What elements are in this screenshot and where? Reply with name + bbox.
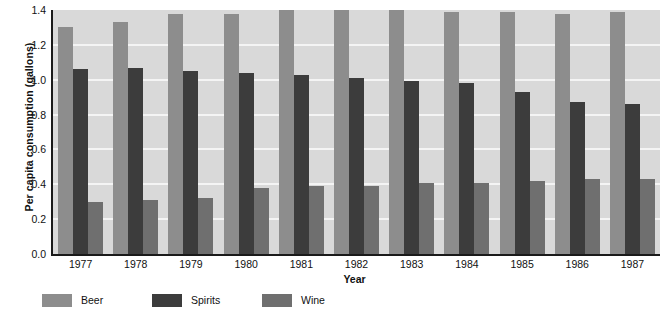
bar-group: [384, 10, 439, 254]
legend-label: Wine: [301, 294, 325, 306]
bar-beer: [610, 12, 625, 254]
bar-wine: [585, 179, 600, 254]
y-axis-tick-label: 1.0: [2, 74, 46, 86]
bar-spirits: [515, 92, 530, 254]
legend-swatch-wine: [262, 294, 292, 307]
bar-beer: [168, 14, 183, 255]
x-axis-tick-label: 1981: [274, 258, 329, 270]
legend-label: Beer: [81, 294, 103, 306]
bar-wine: [530, 181, 545, 254]
bar-spirits: [239, 73, 254, 254]
x-axis-tick-label: 1987: [605, 258, 660, 270]
y-axis-tick-label: 0.2: [2, 213, 46, 225]
legend-swatch-spirits: [152, 294, 182, 307]
x-axis-tick-label: 1980: [219, 258, 274, 270]
bar-wine: [474, 183, 489, 254]
x-axis-tick-label: 1983: [384, 258, 439, 270]
x-axis-tick-labels: 1977197819791980198119821983198419851986…: [53, 258, 660, 270]
bar-wine: [88, 202, 103, 254]
bar-beer: [389, 10, 404, 254]
bar-group: [550, 10, 605, 254]
legend-label: Spirits: [191, 294, 220, 306]
bar-group: [605, 10, 660, 254]
y-axis-tick-labels: 1.41.21.00.80.60.40.20.0: [0, 0, 46, 254]
bar-beer: [500, 12, 515, 254]
bar-wine: [143, 200, 158, 254]
bar-spirits: [183, 71, 198, 254]
bar-group: [329, 10, 384, 254]
bar-spirits: [73, 69, 88, 254]
bar-group: [219, 10, 274, 254]
bar-beer: [224, 14, 239, 255]
bar-wine: [254, 188, 269, 254]
bar-beer: [58, 27, 73, 254]
y-axis-tick-label: 0.0: [2, 248, 46, 260]
bar-spirits: [570, 102, 585, 254]
bar-wine: [198, 198, 213, 254]
y-axis-tick-label: 0.6: [2, 143, 46, 155]
bar-spirits: [404, 81, 419, 254]
bar-group: [163, 10, 218, 254]
legend-swatch-beer: [42, 294, 72, 307]
y-axis-tick-label: 1.4: [2, 4, 46, 16]
legend-item-beer: Beer: [42, 292, 152, 308]
x-axis-tick-label: 1986: [550, 258, 605, 270]
chart-legend: BeerSpiritsWine: [42, 292, 372, 308]
x-axis-title: Year: [51, 273, 658, 285]
bar-beer: [113, 22, 128, 254]
bar-beer: [444, 12, 459, 254]
bar-beer: [334, 10, 349, 254]
y-axis-tick-label: 1.2: [2, 39, 46, 51]
bar-wine: [640, 179, 655, 254]
bar-beer: [279, 10, 294, 254]
bar-groups: [53, 10, 660, 254]
bar-spirits: [294, 75, 309, 255]
bar-wine: [309, 186, 324, 254]
bar-group: [495, 10, 550, 254]
bar-spirits: [459, 83, 474, 254]
bar-beer: [555, 14, 570, 255]
plot-area: [51, 10, 660, 256]
legend-item-wine: Wine: [262, 292, 372, 308]
bar-chart: Per capita consumption (gallons) 1.41.21…: [0, 0, 664, 313]
bar-wine: [419, 183, 434, 254]
x-axis-tick-label: 1977: [53, 258, 108, 270]
bar-wine: [364, 186, 379, 254]
bar-group: [274, 10, 329, 254]
bar-spirits: [128, 68, 143, 254]
bar-group: [439, 10, 494, 254]
x-axis-tick-label: 1985: [495, 258, 550, 270]
x-axis-tick-label: 1978: [108, 258, 163, 270]
bar-group: [53, 10, 108, 254]
legend-item-spirits: Spirits: [152, 292, 262, 308]
x-axis-tick-label: 1984: [439, 258, 494, 270]
y-axis-tick-label: 0.4: [2, 178, 46, 190]
x-axis-tick-label: 1979: [163, 258, 218, 270]
bar-group: [108, 10, 163, 254]
x-axis-tick-label: 1982: [329, 258, 384, 270]
bar-spirits: [349, 78, 364, 254]
y-axis-tick-label: 0.8: [2, 109, 46, 121]
bar-spirits: [625, 104, 640, 254]
